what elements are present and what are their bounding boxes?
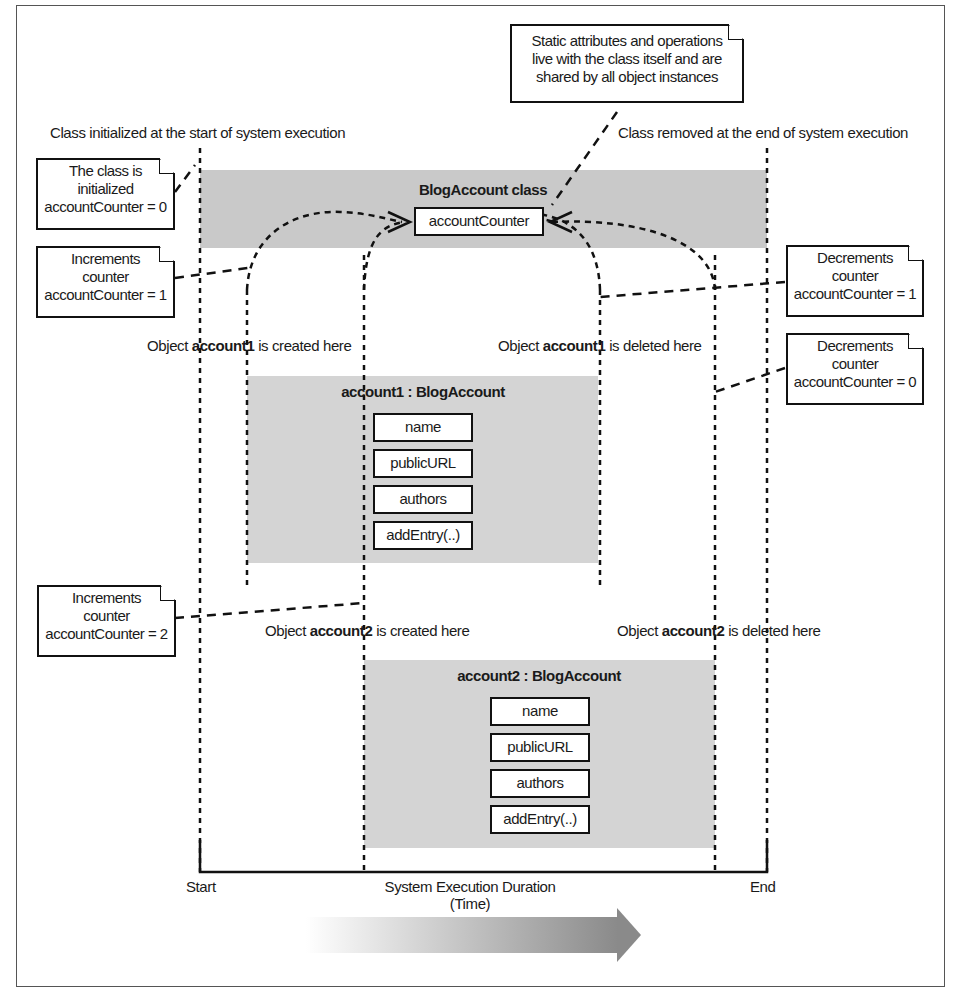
timeline-end-label: End: [750, 878, 776, 895]
account2-title: account2 : BlogAccount: [414, 667, 664, 684]
label-account1-deleted: Object account1 is deleted here: [498, 337, 702, 354]
account1-title: account1 : BlogAccount: [298, 383, 548, 400]
note-fold-icon: [160, 585, 176, 601]
label-account2-created: Object account2 is created here: [265, 622, 469, 639]
dec1-note-connector: [600, 282, 785, 297]
note-class-initialized: The class is initialized accountCounter …: [36, 158, 175, 230]
account1-attr-authors: authors: [373, 485, 473, 514]
account1-op-addEntry: addEntry(..): [373, 521, 473, 550]
class-title: BlogAccount class: [383, 181, 583, 198]
time-arrow-shaft: [306, 917, 618, 953]
note-increments-2: Increments counter accountCounter = 2: [37, 585, 176, 657]
account2-delete-arc: [552, 222, 715, 290]
account2-attr-name: name: [490, 697, 590, 726]
account1-attr-publicURL: publicURL: [373, 449, 473, 478]
note-static-attributes: Static attributes and operations live wi…: [510, 24, 744, 103]
time-arrow-right-icon: [617, 908, 641, 962]
note-fold-icon: [159, 158, 175, 174]
static-attribute-accountCounter: accountCounter: [414, 207, 544, 236]
inc2-note-connector: [175, 603, 364, 618]
note-increments-1: Increments counter accountCounter = 1: [36, 246, 175, 318]
note-fold-icon: [908, 245, 924, 261]
account2-attr-publicURL: publicURL: [490, 733, 590, 762]
label-class-initialized: Class initialized at the start of system…: [50, 124, 345, 141]
note-fold-icon: [728, 24, 744, 40]
account1-attr-name: name: [373, 413, 473, 442]
account2-op-addEntry: addEntry(..): [490, 805, 590, 834]
account2-attr-authors: authors: [490, 769, 590, 798]
timeline-start-label: Start: [186, 878, 216, 895]
dec0-note-connector: [715, 368, 785, 392]
inc1-note-connector: [175, 268, 248, 278]
timeline-axis-label: System Execution Duration (Time): [360, 878, 580, 912]
label-account2-deleted: Object account2 is deleted here: [617, 622, 821, 639]
note-fold-icon: [159, 246, 175, 262]
diagram-lines: [0, 0, 958, 1000]
account2-create-arc: [364, 222, 405, 290]
note-decrements-1: Decrements counter accountCounter = 1: [786, 245, 924, 317]
account1-create-arc: [247, 212, 402, 290]
label-account1-created: Object account1 is created here: [147, 337, 351, 354]
init-note-connector: [175, 165, 195, 192]
note-fold-icon: [908, 333, 924, 349]
time-axis: [200, 840, 767, 872]
label-class-removed: Class removed at the end of system execu…: [618, 124, 908, 141]
note-decrements-0: Decrements counter accountCounter = 0: [786, 333, 924, 405]
